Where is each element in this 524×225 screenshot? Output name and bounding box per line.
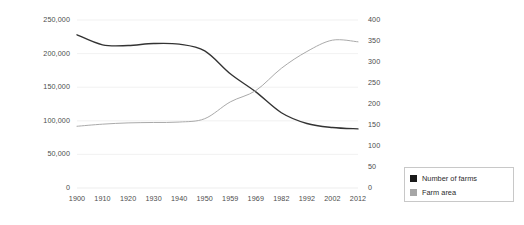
y-axis-left-tick-label: 200,000 — [14, 49, 70, 58]
legend-swatch-number-of-farms — [410, 175, 417, 182]
y-axis-right-tick-label: 200 — [368, 99, 404, 108]
legend-swatch-farm-area — [410, 189, 417, 196]
series-line-number-of-farms — [77, 35, 358, 129]
y-axis-right-tick-label: 100 — [368, 141, 404, 150]
legend-label-farm-area: Farm area — [422, 189, 456, 196]
series-line-farm-area — [77, 40, 358, 127]
y-axis-right-tick-label: 400 — [368, 15, 404, 24]
chart-container: 050,000100,000150,000200,000250,000 0501… — [0, 0, 524, 225]
y-axis-left-tick-label: 100,000 — [14, 116, 70, 125]
y-axis-right-tick-label: 150 — [368, 120, 404, 129]
x-axis-tick-label: 2012 — [343, 194, 373, 203]
legend-item-number-of-farms: Number of farms — [410, 172, 508, 185]
y-axis-right-tick-label: 250 — [368, 78, 404, 87]
y-axis-right-tick-label: 0 — [368, 183, 404, 192]
series-group — [77, 35, 358, 129]
y-axis-right-tick-label: 50 — [368, 162, 404, 171]
y-axis-right-tick-label: 300 — [368, 57, 404, 66]
y-axis-left-tick-label: 150,000 — [14, 82, 70, 91]
legend-item-farm-area: Farm area — [410, 186, 508, 199]
y-axis-left-tick-label: 0 — [14, 183, 70, 192]
y-axis-left-tick-label: 50,000 — [14, 149, 70, 158]
y-axis-right-tick-label: 350 — [368, 36, 404, 45]
y-axis-left-tick-label: 250,000 — [14, 15, 70, 24]
chart-legend: Number of farms Farm area — [404, 167, 514, 202]
legend-label-number-of-farms: Number of farms — [422, 175, 477, 182]
